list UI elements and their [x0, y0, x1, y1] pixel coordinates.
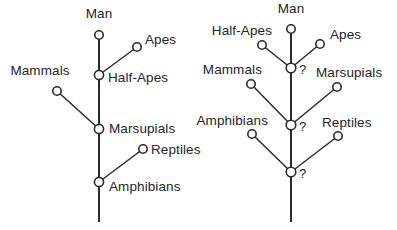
node-label-marsupials-r: Marsupials: [316, 65, 382, 80]
node-circle-reptiles[interactable]: [139, 145, 147, 153]
node-circle-junction-3[interactable]: [286, 167, 296, 177]
node-label-reptiles-r: Reptiles: [322, 115, 372, 130]
node-circle-half-apes[interactable]: [94, 70, 103, 79]
tree-diagram-canvas: ManApesHalf-ApesMammalsMarsupialsReptile…: [0, 0, 397, 230]
node-label-apes-r: Apes: [330, 27, 361, 42]
node-circle-mammals[interactable]: [53, 87, 61, 95]
node-circle-man-r[interactable]: [287, 25, 295, 33]
node-circle-reptiles-r[interactable]: [334, 132, 342, 140]
node-label-mammals: Mammals: [10, 63, 69, 78]
question-mark-query-1: ?: [299, 62, 306, 77]
node-circle-half-apes-r[interactable]: [258, 41, 266, 49]
node-label-mammals-r: Mammals: [203, 62, 262, 77]
node-label-man-r: Man: [278, 1, 305, 16]
node-circle-man[interactable]: [95, 31, 103, 39]
node-label-marsupials: Marsupials: [109, 121, 175, 136]
evolutionary-tree-figure: ManApesHalf-ApesMammalsMarsupialsReptile…: [0, 0, 397, 230]
node-circle-junction-1[interactable]: [286, 63, 296, 73]
node-circle-apes-r[interactable]: [316, 40, 324, 48]
node-label-reptiles: Reptiles: [151, 142, 201, 157]
branch-line-amphibians-r: [252, 134, 291, 172]
branch-line-reptiles: [99, 149, 143, 182]
node-circle-mammals-r[interactable]: [247, 80, 255, 88]
node-circle-marsupials[interactable]: [94, 124, 103, 133]
tree-groups: ManApesHalf-ApesMammalsMarsupialsReptile…: [10, 1, 382, 222]
node-circle-junction-2[interactable]: [286, 120, 296, 130]
node-label-amphibians: Amphibians: [109, 179, 181, 194]
node-label-half-apes: Half-Apes: [108, 70, 168, 85]
question-mark-query-3: ?: [299, 166, 306, 181]
node-label-man: Man: [86, 6, 113, 21]
node-label-apes: Apes: [145, 32, 176, 47]
right-evolutionary-tree: ManHalf-ApesApesMammalsMarsupialsAmphibi…: [196, 1, 382, 222]
node-label-half-apes-r: Half-Apes: [212, 23, 272, 38]
branch-line-mammals: [57, 91, 99, 129]
question-mark-query-2: ?: [299, 119, 306, 134]
node-circle-amphibians-r[interactable]: [248, 130, 256, 138]
node-circle-marsupials-r[interactable]: [333, 83, 341, 91]
node-circle-apes[interactable]: [133, 43, 141, 51]
node-circle-amphibians[interactable]: [94, 177, 103, 186]
node-label-amphibians-r: Amphibians: [196, 113, 268, 128]
left-evolutionary-tree: ManApesHalf-ApesMammalsMarsupialsReptile…: [10, 6, 200, 222]
